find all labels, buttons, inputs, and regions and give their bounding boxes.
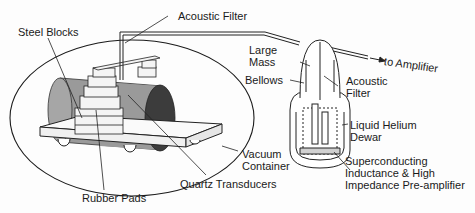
label-rubber-pads: Rubber Pads: [82, 192, 146, 204]
liquid-helium-dewar: [290, 40, 350, 168]
detector-diagram: Acoustic Filter Steel Blocks Large Mass …: [0, 0, 475, 213]
label-acoustic-filter-right: Acoustic Filter: [346, 75, 388, 99]
platform: [40, 116, 222, 152]
label-acoustic-filter-top: Acoustic Filter: [178, 10, 247, 22]
to-amplifier-arrow: [370, 57, 385, 62]
label-vacuum-container: Vacuum Container: [242, 148, 290, 172]
label-superconducting-preamp: Superconducting Inductance & High Impeda…: [345, 155, 465, 191]
label-large-mass: Large Mass: [249, 44, 277, 68]
label-quartz-transducers: Quartz Transducers: [180, 178, 277, 190]
label-steel-blocks: Steel Blocks: [18, 26, 79, 38]
label-bellows: Bellows: [245, 74, 283, 86]
label-liquid-helium-dewar: Liquid Helium Dewar: [350, 119, 417, 143]
